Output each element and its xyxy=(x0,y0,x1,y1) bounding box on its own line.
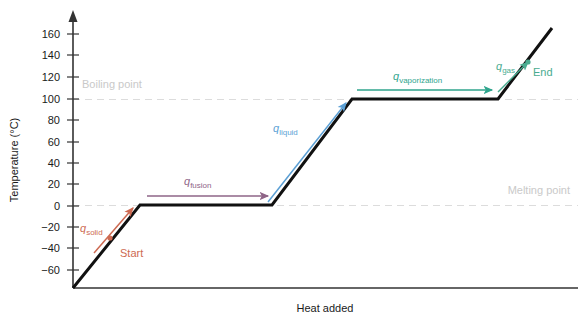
tick-label-120: 120 xyxy=(42,71,60,83)
q-fusion-label: qfusion xyxy=(184,175,211,190)
heating-curve-figure: Boiling point Melting point 160 140 120 … xyxy=(0,0,587,326)
start-point-marker xyxy=(107,235,112,240)
q-solid-subscript: solid xyxy=(86,228,102,237)
melting-point-label: Melting point xyxy=(508,184,570,196)
q-gas-label: qgas xyxy=(496,60,515,75)
y-axis-tick-labels: 160 140 120 100 80 60 40 20 0 −20 −40 −6… xyxy=(41,28,60,276)
heating-curve-chart: Boiling point Melting point 160 140 120 … xyxy=(0,0,587,326)
q-vaporization-label: qvaporization xyxy=(393,70,442,85)
tick-label-60: 60 xyxy=(48,136,60,148)
q-liquid-subscript: liquid xyxy=(279,128,298,137)
q-fusion-subscript: fusion xyxy=(190,181,211,190)
tick-label-neg20: −20 xyxy=(41,221,60,233)
tick-label-0: 0 xyxy=(54,200,60,212)
annotation-arrows xyxy=(94,62,528,253)
tick-label-100: 100 xyxy=(42,93,60,105)
reference-lines xyxy=(73,100,578,206)
annotation-labels: qsolid qfusion qliquid qvaporization qga… xyxy=(80,60,515,237)
end-point-marker xyxy=(525,59,530,64)
start-label: Start xyxy=(120,247,143,259)
y-axis-title: Temperature (°C) xyxy=(8,118,20,202)
y-axis-arrowhead xyxy=(69,10,78,22)
boiling-point-label: Boiling point xyxy=(82,78,142,90)
q-vaporization-subscript: vaporization xyxy=(399,76,442,85)
end-label: End xyxy=(533,66,553,78)
tick-label-neg40: −40 xyxy=(41,242,60,254)
heating-curve-line xyxy=(73,28,552,288)
tick-label-40: 40 xyxy=(48,157,60,169)
tick-label-80: 80 xyxy=(48,114,60,126)
q-liquid-label: qliquid xyxy=(273,122,298,137)
q-gas-subscript: gas xyxy=(502,66,515,75)
q-solid-label: qsolid xyxy=(80,222,103,237)
tick-label-140: 140 xyxy=(42,49,60,61)
x-axis-title: Heat added xyxy=(297,302,354,314)
q-liquid-arrow xyxy=(268,103,346,202)
tick-label-neg60: −60 xyxy=(41,264,60,276)
axes xyxy=(69,10,579,288)
tick-label-20: 20 xyxy=(48,178,60,190)
tick-label-160: 160 xyxy=(42,28,60,40)
